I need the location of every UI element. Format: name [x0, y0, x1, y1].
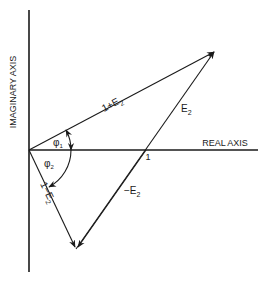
- svg-text:E2: E2: [181, 103, 192, 116]
- vector-minus-e2: [78, 150, 146, 247]
- imaginary-axis-label: IMAGINARY AXIS: [8, 56, 18, 129]
- label-1-plus-e2: 1+E2: [100, 94, 126, 116]
- real-axis-label: REAL AXIS: [202, 138, 248, 148]
- label-minus-e2: −E2: [124, 185, 141, 198]
- svg-text:−E2: −E2: [124, 185, 141, 198]
- svg-text:φ2: φ2: [44, 158, 54, 170]
- label-phi1: φ1: [53, 137, 63, 149]
- phasor-diagram: IMAGINARY AXIS REAL AXIS 1 1+E2 E2 −E2 1…: [0, 0, 271, 287]
- angle-arc-phi1: [66, 130, 71, 150]
- svg-text:1+E2: 1+E2: [100, 94, 126, 116]
- label-e2: E2: [181, 103, 192, 116]
- unit-tick-label: 1: [145, 152, 150, 162]
- label-phi2: φ2: [44, 158, 54, 170]
- svg-text:φ1: φ1: [53, 137, 63, 149]
